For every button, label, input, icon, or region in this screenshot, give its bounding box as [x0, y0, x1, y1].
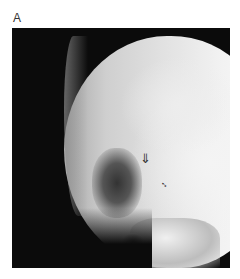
xray-image: ⇓ ↕: [12, 28, 230, 268]
skull-outer-edge: [64, 36, 88, 216]
lower-shadow: [12, 208, 152, 268]
open-arrow-icon: ⇓: [140, 152, 148, 166]
panel-label: A: [13, 11, 21, 25]
